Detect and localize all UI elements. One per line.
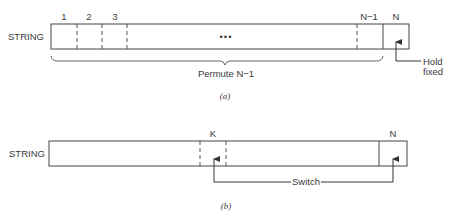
- cell-label-k: K: [210, 128, 217, 139]
- caption-a: (a): [220, 91, 231, 101]
- hold-label-line2: fixed: [423, 66, 443, 77]
- permutation-diagram: STRING 1 2 3 N−1 N ••• Permute N−1 Hold …: [0, 0, 450, 219]
- cell-label-2: 2: [86, 11, 91, 22]
- ellipsis: •••: [220, 31, 233, 42]
- cell-label-n: N: [393, 11, 400, 22]
- figure-b: STRING K N Switch (b): [9, 128, 407, 211]
- figure-a: STRING 1 2 3 N−1 N ••• Permute N−1 Hold …: [8, 11, 443, 101]
- switch-label: Switch: [292, 176, 320, 187]
- string-box-b: [49, 141, 407, 166]
- string-label-a: STRING: [8, 31, 44, 42]
- string-label-b: STRING: [9, 148, 45, 159]
- permute-label: Permute N−1: [198, 68, 254, 79]
- cell-label-n-b: N: [390, 128, 397, 139]
- cell-label-3: 3: [112, 11, 117, 22]
- cell-label-n-1: N−1: [360, 11, 378, 22]
- cell-label-1: 1: [61, 11, 66, 22]
- permute-brace: [51, 56, 383, 65]
- caption-b: (b): [221, 201, 232, 211]
